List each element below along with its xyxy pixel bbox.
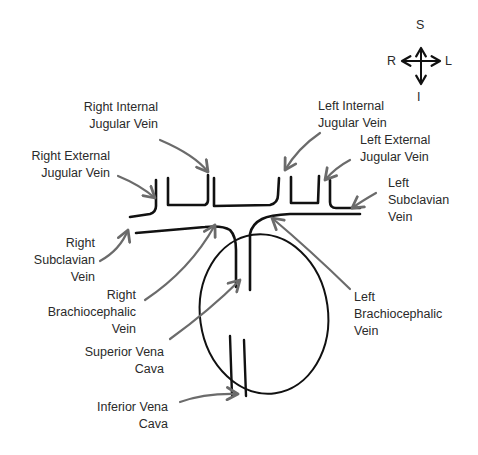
vein-diagram-canvas — [0, 0, 478, 455]
arrow-right-subclavian — [100, 230, 128, 261]
arrow-left-subclavian — [352, 193, 376, 208]
arrow-right-internal-jugular — [160, 140, 208, 172]
arrow-left-external-jugular — [325, 160, 350, 180]
label-inferior-vena-cava: Inferior Vena Cava — [97, 399, 168, 433]
label-left-external-jugular-vein: Left External Jugular Vein — [360, 132, 430, 166]
compass-right-label: R — [387, 54, 396, 68]
compass-superior-label: S — [416, 18, 424, 32]
arrow-left-brachiocephalic — [272, 218, 350, 289]
label-left-subclavian-vein: Left Subclavian Vein — [388, 175, 449, 226]
ivc-outline — [230, 336, 246, 396]
arrow-right-external-jugular — [118, 176, 155, 198]
label-right-brachiocephalic-vein: Right Brachiocephalic Vein — [48, 287, 136, 338]
compass-left-label: L — [445, 54, 452, 68]
label-superior-vena-cava: Superior Vena Cava — [85, 344, 164, 378]
arrow-left-internal-jugular — [285, 133, 320, 170]
label-left-brachiocephalic-vein: Left Brachiocephalic Vein — [354, 289, 442, 340]
heart-outline — [189, 226, 338, 402]
label-left-internal-jugular-vein: Left Internal Jugular Vein — [318, 98, 387, 132]
arrow-superior-vena-cava — [170, 280, 240, 339]
label-right-external-jugular-vein: Right External Jugular Vein — [31, 148, 110, 182]
compass-inferior-label: I — [417, 90, 420, 104]
arrow-inferior-vena-cava — [180, 394, 238, 402]
lower-vein-outline — [136, 214, 360, 290]
compass-rose — [402, 48, 440, 84]
arrow-right-brachiocephalic — [145, 225, 215, 300]
label-right-internal-jugular-vein: Right Internal Jugular Vein — [84, 99, 158, 133]
label-right-subclavian-vein: Right Subclavian Vein — [34, 235, 95, 286]
upper-vein-outline — [130, 175, 360, 217]
